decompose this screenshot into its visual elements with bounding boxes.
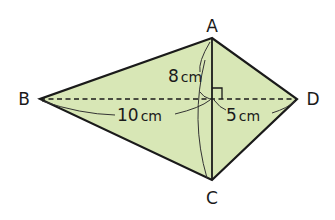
measure-ao: 8cm [168,66,202,86]
vertex-label-d: D [306,89,319,109]
measure-od: 5cm [226,105,260,125]
vertex-label-a: A [206,16,218,36]
vertex-label-c: C [206,188,218,208]
kite-diagram: A B C D 8cm 10cm 5cm [0,0,335,220]
vertex-label-b: B [18,89,30,109]
